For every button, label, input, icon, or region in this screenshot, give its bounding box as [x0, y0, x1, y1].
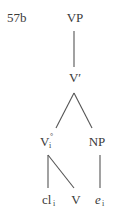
node-v-i-superscript: ° [50, 133, 53, 141]
edge-vbar-vi [56, 93, 74, 128]
edge-vbar-np [74, 93, 92, 128]
node-v-i-subscript: i [49, 142, 51, 150]
leaf-e-i: e i [95, 193, 101, 206]
leaf-cl-i: cl i [42, 193, 51, 206]
leaf-e-label: e [95, 192, 101, 207]
edge-vi-v [48, 155, 74, 188]
node-np: NP [89, 135, 106, 148]
node-v-i: V ° i [40, 135, 49, 148]
leaf-cl-label: cl [42, 192, 51, 207]
node-v-i-label: V [40, 134, 49, 149]
leaf-e-subscript: i [102, 200, 104, 208]
tree-edges [0, 0, 114, 214]
node-vp: VP [67, 11, 84, 24]
node-vbar: V′ [69, 71, 81, 84]
leaf-v: V [71, 193, 80, 206]
leaf-cl-subscript: i [53, 200, 55, 208]
